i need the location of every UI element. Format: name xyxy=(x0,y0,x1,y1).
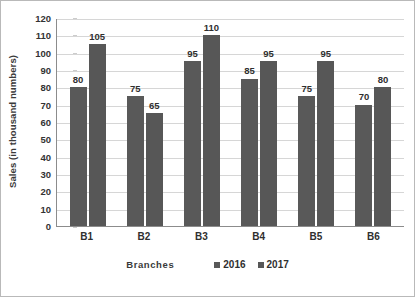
bar-b1-2016[interactable] xyxy=(70,87,87,226)
y-axis-tick-label: 50 xyxy=(40,136,51,146)
bar-groups: 80105756595110859575957080 xyxy=(57,19,404,226)
bar-b5-2017[interactable] xyxy=(317,61,334,226)
y-axis-tick-labels: 1201101009080706050403020100 xyxy=(23,19,51,227)
bar-b5-2016[interactable] xyxy=(298,96,315,226)
bar-slot: 65 xyxy=(146,19,163,226)
bar-value-label: 80 xyxy=(73,75,84,85)
bar-b2-2017[interactable] xyxy=(146,113,163,226)
chart-container: Sales (in thousand numbers) 120110100908… xyxy=(0,0,415,297)
bar-group: 95110 xyxy=(173,19,230,226)
bar-slot: 95 xyxy=(317,19,334,226)
bar-slot: 80 xyxy=(70,19,87,226)
legend-item-2017[interactable]: 2017 xyxy=(258,259,289,270)
bar-b3-2017[interactable] xyxy=(203,35,220,226)
bar-group: 7595 xyxy=(288,19,345,226)
bar-slot: 105 xyxy=(89,19,106,226)
bar-slot: 70 xyxy=(355,19,372,226)
legend-label: 2016 xyxy=(223,259,245,270)
bar-slot: 95 xyxy=(260,19,277,226)
x-axis-tick-label: B5 xyxy=(287,231,344,242)
y-axis-tick-label: 40 xyxy=(40,153,51,163)
bar-b6-2016[interactable] xyxy=(355,105,372,226)
bar-slot: 80 xyxy=(374,19,391,226)
bar-value-label: 95 xyxy=(263,49,274,59)
bar-value-label: 75 xyxy=(301,84,312,94)
legend-swatch-icon xyxy=(258,262,264,268)
y-axis-title: Sales (in thousand numbers) xyxy=(3,1,23,241)
bar-b3-2016[interactable] xyxy=(184,61,201,226)
bar-b2-2016[interactable] xyxy=(127,96,144,226)
bar-b1-2017[interactable] xyxy=(89,44,106,226)
x-axis-tick-label: B1 xyxy=(58,231,115,242)
chart-footer: Branches 20162017 xyxy=(1,259,414,270)
bar-value-label: 75 xyxy=(130,84,141,94)
y-axis-tick-label: 110 xyxy=(36,32,51,42)
bar-slot: 75 xyxy=(127,19,144,226)
y-axis-tick-label: 20 xyxy=(40,188,51,198)
x-axis-title: Branches xyxy=(126,259,174,270)
bar-group: 80105 xyxy=(59,19,116,226)
y-axis-tick-label: 70 xyxy=(40,101,51,111)
y-axis-tick-label: 0 xyxy=(46,222,51,232)
x-axis-tick-label: B2 xyxy=(115,231,172,242)
x-axis-tick-label: B4 xyxy=(230,231,287,242)
x-axis-tick-label: B6 xyxy=(345,231,402,242)
y-axis-tick-label: 100 xyxy=(35,49,51,59)
bar-value-label: 95 xyxy=(320,49,331,59)
y-axis-tick-label: 120 xyxy=(35,14,51,24)
bar-value-label: 110 xyxy=(204,23,219,33)
bar-group: 7565 xyxy=(116,19,173,226)
bar-slot: 95 xyxy=(184,19,201,226)
bar-value-label: 105 xyxy=(89,32,105,42)
bar-value-label: 85 xyxy=(244,66,255,76)
bar-value-label: 65 xyxy=(149,101,160,111)
y-axis-tick-label: 30 xyxy=(40,170,51,180)
bar-slot: 85 xyxy=(241,19,258,226)
bar-slot: 75 xyxy=(298,19,315,226)
x-axis-tick-label: B3 xyxy=(173,231,230,242)
bar-b4-2017[interactable] xyxy=(260,61,277,226)
bar-b6-2017[interactable] xyxy=(374,87,391,226)
chart-legend: 20162017 xyxy=(214,259,289,270)
bar-group: 7080 xyxy=(345,19,402,226)
y-axis-tick-label: 80 xyxy=(40,84,51,94)
y-axis-tick-label: 10 xyxy=(40,205,51,215)
y-axis-title-label: Sales (in thousand numbers) xyxy=(8,54,19,187)
bar-value-label: 80 xyxy=(378,75,389,85)
bar-value-label: 95 xyxy=(187,49,198,59)
bar-value-label: 70 xyxy=(359,92,370,102)
plot-area: 80105756595110859575957080 xyxy=(56,19,404,227)
bar-slot: 110 xyxy=(203,19,220,226)
legend-swatch-icon xyxy=(214,262,220,268)
y-axis-tick-label: 60 xyxy=(40,118,51,128)
legend-item-2016[interactable]: 2016 xyxy=(214,259,245,270)
y-axis-tick-label: 90 xyxy=(40,66,51,76)
bar-b4-2016[interactable] xyxy=(241,79,258,226)
x-axis-tick-labels: B1B2B3B4B5B6 xyxy=(56,231,404,242)
legend-label: 2017 xyxy=(267,259,289,270)
bar-group: 8595 xyxy=(231,19,288,226)
